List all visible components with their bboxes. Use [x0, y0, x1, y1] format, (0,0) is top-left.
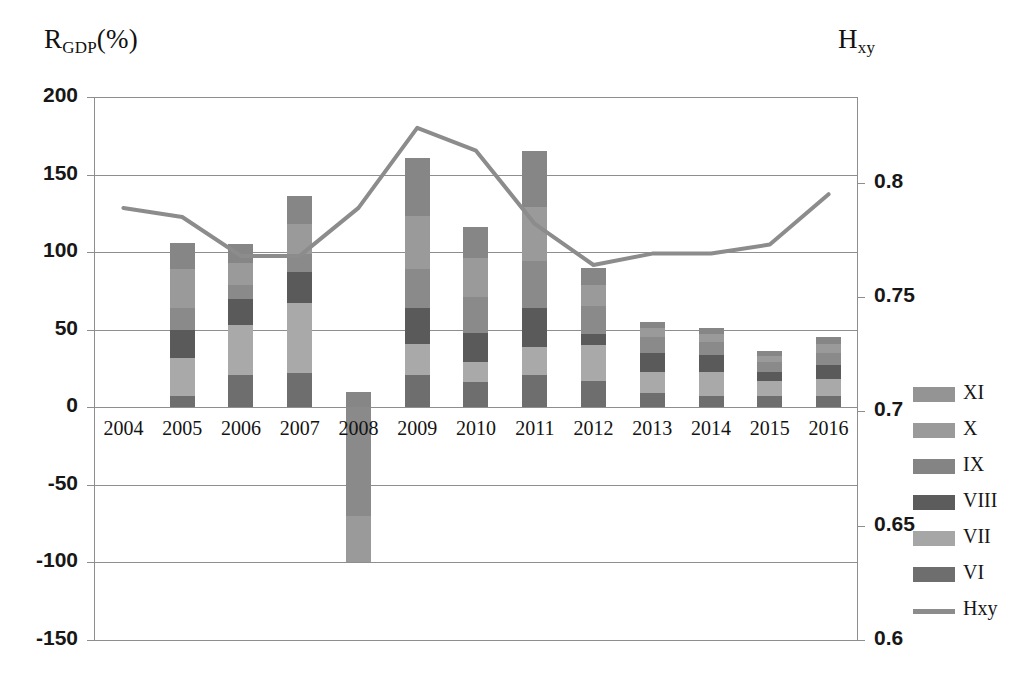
legend-item[interactable]: VII	[913, 522, 1025, 558]
bar-segment[interactable]	[640, 337, 665, 353]
bar-segment[interactable]	[640, 353, 665, 372]
bar-segment[interactable]	[757, 381, 782, 397]
bar-column[interactable]	[405, 97, 430, 640]
bar-segment[interactable]	[228, 263, 253, 285]
bar-segment[interactable]	[581, 334, 606, 345]
bar-column[interactable]	[816, 97, 841, 640]
bar-segment[interactable]	[581, 306, 606, 334]
bar-column[interactable]	[346, 97, 371, 640]
bar-segment[interactable]	[287, 224, 312, 253]
bar-segment[interactable]	[170, 243, 195, 269]
bar-segment[interactable]	[640, 393, 665, 407]
bar-column[interactable]	[463, 97, 488, 640]
bar-segment[interactable]	[405, 308, 430, 344]
bar-segment[interactable]	[405, 344, 430, 375]
bar-column[interactable]	[581, 97, 606, 640]
bar-segment[interactable]	[287, 196, 312, 224]
bar-column[interactable]	[699, 97, 724, 640]
bar-segment[interactable]	[699, 334, 724, 342]
bar-segment[interactable]	[463, 227, 488, 258]
bar-segment[interactable]	[522, 347, 547, 375]
x-axis-label: 2015	[740, 417, 799, 440]
bar-segment[interactable]	[699, 396, 724, 407]
bar-segment[interactable]	[581, 285, 606, 307]
legend-color-swatch	[913, 423, 955, 438]
bar-segment[interactable]	[816, 396, 841, 407]
bar-column[interactable]	[111, 97, 136, 640]
legend-item[interactable]: VI	[913, 558, 1025, 594]
bar-segment[interactable]	[757, 396, 782, 407]
bar-segment[interactable]	[405, 375, 430, 408]
bar-segment[interactable]	[228, 325, 253, 375]
bar-segment[interactable]	[640, 372, 665, 394]
bar-segment[interactable]	[816, 344, 841, 353]
bar-segment[interactable]	[581, 268, 606, 285]
legend-item[interactable]: IX	[913, 450, 1025, 486]
bar-segment[interactable]	[522, 151, 547, 207]
bar-segment[interactable]	[463, 382, 488, 407]
bar-segment[interactable]	[170, 269, 195, 308]
legend-item[interactable]: VIII	[913, 486, 1025, 522]
bar-segment[interactable]	[522, 261, 547, 308]
bar-segment[interactable]	[816, 353, 841, 365]
bar-segment[interactable]	[287, 254, 312, 273]
legend-color-swatch	[913, 567, 955, 582]
bar-segment[interactable]	[170, 358, 195, 397]
bar-segment[interactable]	[757, 356, 782, 362]
bar-segment[interactable]	[228, 244, 253, 263]
bar-segment[interactable]	[522, 207, 547, 261]
bar-column[interactable]	[228, 97, 253, 640]
bar-segment[interactable]	[346, 516, 371, 563]
bar-segment[interactable]	[640, 328, 665, 337]
legend-item[interactable]: Hxy	[913, 594, 1025, 630]
bar-segment[interactable]	[757, 351, 782, 356]
bar-segment[interactable]	[699, 328, 724, 334]
left-tick-mark	[87, 97, 94, 98]
bar-segment[interactable]	[346, 392, 371, 408]
bar-segment[interactable]	[640, 322, 665, 328]
bar-segment[interactable]	[463, 333, 488, 362]
bar-segment[interactable]	[287, 373, 312, 407]
bar-segment[interactable]	[522, 375, 547, 408]
bar-segment[interactable]	[757, 372, 782, 381]
bar-segment[interactable]	[463, 258, 488, 297]
bar-segment[interactable]	[463, 297, 488, 333]
bar-segment[interactable]	[405, 269, 430, 308]
bar-segment[interactable]	[699, 355, 724, 372]
bar-column[interactable]	[522, 97, 547, 640]
bar-segment[interactable]	[699, 342, 724, 354]
left-axis-title-suffix: (%)	[97, 24, 138, 54]
bar-segment[interactable]	[757, 362, 782, 371]
bar-segment[interactable]	[228, 375, 253, 408]
bar-segment[interactable]	[581, 345, 606, 381]
bar-segment[interactable]	[170, 330, 195, 358]
bar-segment[interactable]	[581, 381, 606, 407]
bar-segment[interactable]	[816, 337, 841, 343]
bar-segment[interactable]	[522, 308, 547, 347]
bar-column[interactable]	[287, 97, 312, 640]
bar-segment[interactable]	[228, 299, 253, 325]
bar-segment[interactable]	[287, 303, 312, 373]
bar-segment[interactable]	[816, 365, 841, 379]
legend-color-swatch	[913, 531, 955, 546]
bar-segment[interactable]	[170, 308, 195, 330]
legend-item[interactable]: X	[913, 414, 1025, 450]
bar-segment[interactable]	[170, 396, 195, 407]
legend-line-swatch	[913, 609, 955, 614]
bar-column[interactable]	[640, 97, 665, 640]
bar-column[interactable]	[170, 97, 195, 640]
bar-segment[interactable]	[405, 216, 430, 269]
bar-column[interactable]	[757, 97, 782, 640]
bar-segment[interactable]	[463, 362, 488, 382]
bar-segment[interactable]	[699, 372, 724, 397]
bar-segment[interactable]	[816, 379, 841, 396]
left-tick-mark	[87, 562, 94, 563]
right-tick-label: 0.65	[874, 512, 915, 536]
legend-color-swatch	[913, 495, 955, 510]
bar-segment[interactable]	[405, 158, 430, 217]
bar-segment[interactable]	[287, 272, 312, 303]
x-axis-label: 2008	[329, 417, 388, 440]
bar-segment[interactable]	[228, 285, 253, 299]
right-tick-label: 0.75	[874, 283, 915, 307]
legend-item[interactable]: XI	[913, 378, 1025, 414]
